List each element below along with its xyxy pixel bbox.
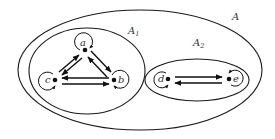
set-a-ellipse (18, 10, 262, 130)
node-c-label: c (45, 74, 51, 85)
node-a (83, 48, 88, 53)
node-e (227, 77, 232, 82)
node-d-label: d (158, 73, 164, 84)
node-e-label: e (233, 73, 239, 84)
node-b (112, 78, 117, 83)
node-a-label: a (80, 37, 86, 48)
edge-b-to-a (88, 57, 107, 77)
set-a1-label: A1 (127, 25, 139, 38)
edge-a-to-b (91, 51, 111, 72)
node-b-label: b (118, 74, 124, 85)
set-a-label: A (231, 11, 239, 22)
set-a1-ellipse (29, 28, 145, 114)
node-c (53, 78, 58, 83)
set-a2-label: A2 (192, 37, 204, 50)
node-d (166, 77, 171, 82)
relation-diagram: A A1 A2 a b c d e (0, 0, 275, 139)
